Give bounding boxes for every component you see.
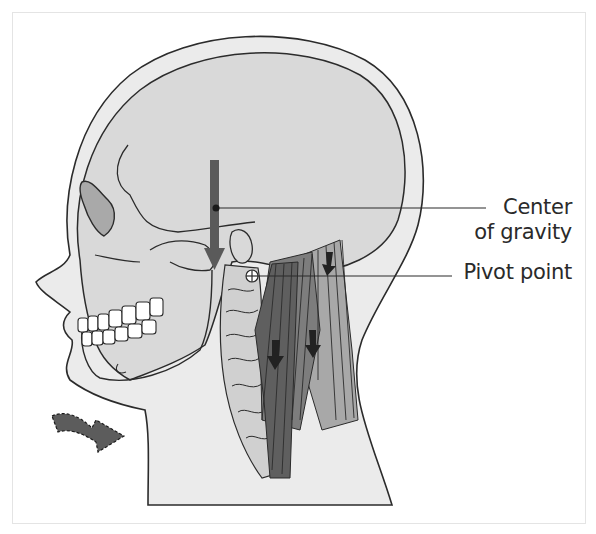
center-of-gravity-label: Center of gravity (474, 195, 572, 245)
rotation-arrow-icon (52, 414, 124, 452)
center-of-gravity-label-line1: Center (474, 195, 572, 220)
center-of-gravity-dot (213, 205, 220, 212)
pivot-point-label: Pivot point (464, 260, 572, 285)
center-of-gravity-label-line2: of gravity (474, 220, 572, 245)
pivot-crosshair-icon (246, 270, 258, 282)
